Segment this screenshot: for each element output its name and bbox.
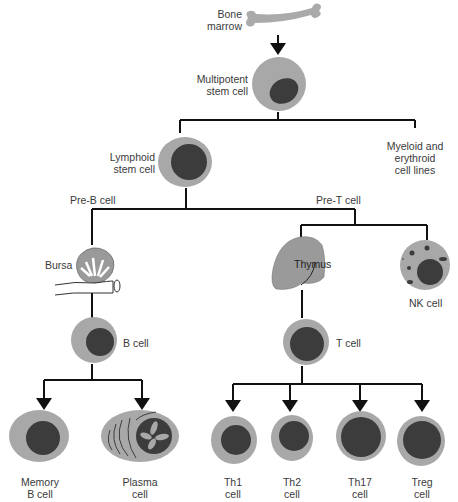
bursa-organ: [55, 248, 120, 295]
label-multipotent-stem-cell: Multipotent stem cell: [180, 73, 248, 97]
label-line: cell: [400, 488, 444, 500]
label-line: Bone: [200, 8, 242, 20]
label-line: Th1: [211, 476, 255, 488]
label-line: stem cell: [180, 85, 248, 97]
label-line: cell: [211, 488, 255, 500]
label-treg-cell: Treg cell: [400, 476, 444, 500]
label-line: Multipotent: [180, 73, 248, 85]
label-line: cell: [110, 488, 170, 500]
label-pre-b-cell: Pre-B cell: [70, 194, 116, 206]
label-myeloid-erythroid: Myeloid and erythroid cell lines: [375, 140, 455, 176]
bone-icon: [246, 4, 321, 27]
label-line: Treg: [400, 476, 444, 488]
lymphocyte-lineage-diagram: Bone marrow Multipotent stem cell Lympho…: [0, 0, 458, 502]
arrow-icon: [36, 398, 52, 410]
label-line: Memory: [10, 476, 70, 488]
label-bursa: Bursa: [45, 259, 72, 271]
arrow-icon: [282, 400, 298, 412]
label-line: Plasma: [110, 476, 170, 488]
label-th17-cell: Th17 cell: [338, 476, 382, 500]
th17-cell: [336, 411, 386, 461]
label-line: Myeloid and: [375, 140, 455, 152]
label-pre-t-cell: Pre-T cell: [316, 194, 361, 206]
memory-b-cell: [9, 410, 69, 462]
arrow-icon: [414, 400, 430, 412]
label-thymus: Thymus: [294, 258, 331, 270]
label-plasma-cell: Plasma cell: [110, 476, 170, 500]
label-line: B cell: [10, 488, 70, 500]
label-b-cell: B cell: [123, 337, 149, 349]
nk-cell: [400, 240, 450, 290]
label-line: marrow: [200, 20, 242, 32]
t-cell: [283, 319, 329, 365]
multipotent-stem-cell: [252, 57, 306, 111]
label-line: Lymphoid: [100, 151, 155, 163]
b-cell: [71, 317, 117, 363]
label-th1-cell: Th1 cell: [211, 476, 255, 500]
label-line: stem cell: [100, 163, 155, 175]
arrow-icon: [225, 400, 241, 412]
lymphoid-stem-cell: [158, 137, 212, 187]
label-line: cell: [270, 488, 314, 500]
label-line: erythroid: [375, 152, 455, 164]
arrow-icon: [270, 43, 286, 55]
plasma-cell: [101, 410, 179, 462]
label-lymphoid-stem-cell: Lymphoid stem cell: [100, 151, 155, 175]
label-memory-b-cell: Memory B cell: [10, 476, 70, 500]
label-bone-marrow: Bone marrow: [200, 8, 242, 32]
th1-cell: [211, 416, 257, 464]
label-t-cell: T cell: [336, 337, 361, 349]
label-line: Th17: [338, 476, 382, 488]
label-line: cell: [338, 488, 382, 500]
label-nk-cell: NK cell: [409, 297, 442, 309]
arrow-icon: [134, 398, 150, 410]
label-line: Th2: [270, 476, 314, 488]
label-th2-cell: Th2 cell: [270, 476, 314, 500]
treg-cell: [397, 416, 445, 466]
arrow-icon: [352, 400, 368, 412]
th2-cell: [271, 415, 313, 461]
label-line: cell lines: [375, 164, 455, 176]
